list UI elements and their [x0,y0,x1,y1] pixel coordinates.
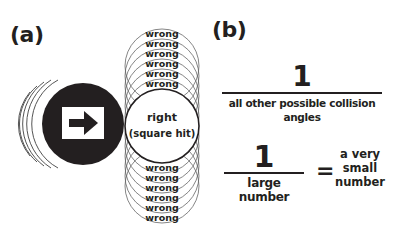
result-line-1: a very [334,147,386,161]
fraction1-denominator: all other possible collision angles [222,94,382,124]
fraction-large-number: 1 large number [224,142,304,204]
wrong-label: wrong [145,212,179,223]
wrong-label: wrong [145,192,179,203]
wrong-label: wrong [145,182,179,193]
fraction2-denominator: large number [224,174,304,204]
wrong-label: wrong [145,202,179,213]
fraction1-numerator: 1 [222,62,382,92]
right-hit-circle [125,89,199,163]
fraction-collision-angles: 1 all other possible collision angles [222,62,382,124]
fraction2-numerator: 1 [224,142,304,172]
wrong-label: wrong [145,162,179,173]
moving-object [42,83,124,165]
result-line-3: number [334,175,386,189]
wrong-label: wrong [145,78,179,89]
result-line-2: small [334,161,386,175]
square-hit-label: (square hit) [129,128,196,139]
wrong-label: wrong [145,172,179,183]
equals-sign: = [316,158,334,183]
result-text: a very small number [334,147,386,189]
right-label: right [147,111,177,124]
